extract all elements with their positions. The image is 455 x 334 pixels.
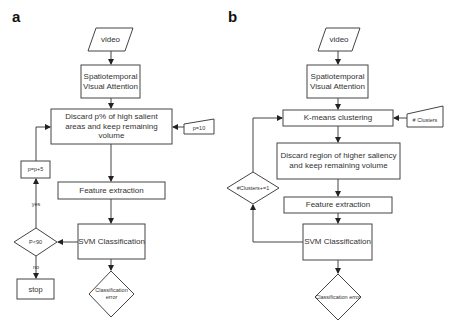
b-attention-node: Spatiotemporal Visual Attention	[307, 65, 368, 98]
a-yes-label: yes	[24, 199, 48, 209]
b-kmeans-node: K-means clustering	[283, 110, 393, 126]
a-error-node: Classification error	[89, 283, 134, 305]
panel-a-label: a	[12, 8, 20, 25]
a-feature-node: Feature extraction	[58, 182, 165, 199]
b-video-node: video	[318, 28, 360, 51]
a-discard-node: Discard p% of high salient areas and kee…	[51, 109, 172, 144]
a-attention-node: Spatiotemporal Visual Attention	[81, 65, 140, 98]
b-svm-node: SVM Classification	[303, 224, 372, 260]
panel-b-label: b	[228, 8, 237, 25]
a-stop-node: stop	[17, 279, 54, 299]
a-svm-node: SVM Classification	[78, 224, 145, 259]
a-no-label: no	[24, 262, 48, 272]
b-update-node: #Clusters+=1	[227, 182, 279, 194]
b-feature-node: Feature extraction	[284, 197, 392, 213]
b-discard-node: Discard region of higher saliency and ke…	[277, 143, 400, 179]
a-param-input-node: p=10	[184, 123, 214, 134]
b-param-input-node: # Clusters	[407, 114, 443, 127]
a-video-node: video	[88, 28, 133, 51]
a-update-node: p=p+5	[21, 161, 50, 178]
a-decision-node: P<90	[14, 236, 57, 248]
b-error-node: Classification error	[315, 286, 361, 308]
